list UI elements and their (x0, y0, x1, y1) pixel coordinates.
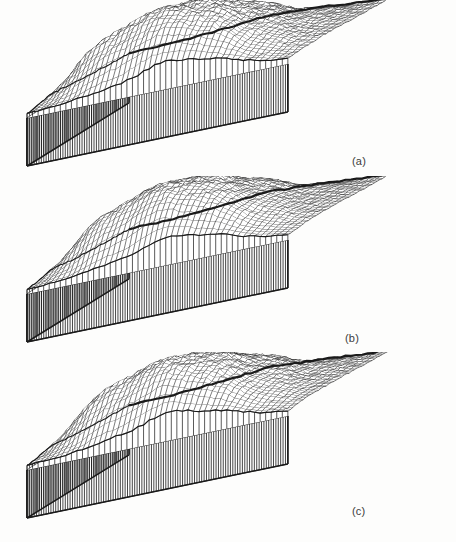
surface-panel-b: (b) (0, 176, 456, 366)
surface-plot-a (0, 0, 456, 190)
panel-label-c: (c) (352, 505, 365, 517)
surface-panel-a: (a) (0, 0, 456, 190)
panel-label-b: (b) (345, 332, 359, 344)
surface-plot-c (0, 352, 456, 542)
surface-panel-c: (c) (0, 352, 456, 542)
figure-root: (a) (b) (c) (0, 0, 456, 542)
panel-label-a: (a) (352, 155, 366, 167)
surface-plot-b (0, 176, 456, 366)
